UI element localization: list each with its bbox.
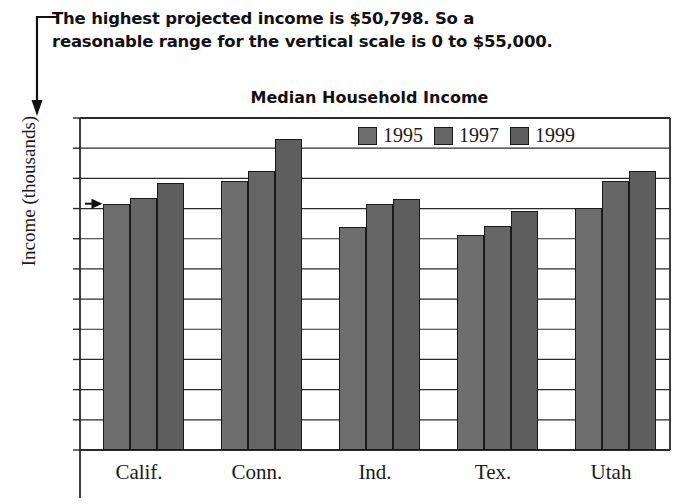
bar [511, 211, 538, 450]
legend-label: 1997 [459, 124, 499, 147]
chart-legend: 199519971999 [358, 124, 575, 147]
bar [275, 139, 302, 450]
legend-item: 1997 [434, 124, 499, 147]
bar [629, 171, 656, 450]
legend-swatch-icon [358, 127, 377, 145]
bar [103, 204, 130, 450]
bar [575, 208, 602, 450]
x-axis-tick-label: Conn. [198, 460, 316, 485]
legend-swatch-icon [510, 127, 529, 145]
legend-label: 1999 [535, 124, 575, 147]
bar-chart: Income (thousands) 555045403530252015105… [0, 0, 683, 504]
x-axis-tick-label: Ind. [316, 460, 434, 485]
bar [157, 183, 184, 450]
legend-item: 1999 [510, 124, 575, 147]
bar [457, 235, 484, 450]
bar [130, 198, 157, 450]
value-pointer-arrow-icon [85, 199, 103, 209]
bar [602, 181, 629, 450]
bar [484, 226, 511, 450]
bar [366, 204, 393, 450]
x-axis-tick-label: Utah [552, 460, 670, 485]
legend-item: 1995 [358, 124, 423, 147]
bar [221, 181, 248, 450]
bar [393, 199, 420, 450]
bar [339, 227, 366, 450]
bar [248, 171, 275, 450]
legend-swatch-icon [434, 127, 453, 145]
legend-label: 1995 [383, 124, 423, 147]
x-axis-tick-label: Calif. [80, 460, 198, 485]
x-axis-tick-label: Tex. [434, 460, 552, 485]
